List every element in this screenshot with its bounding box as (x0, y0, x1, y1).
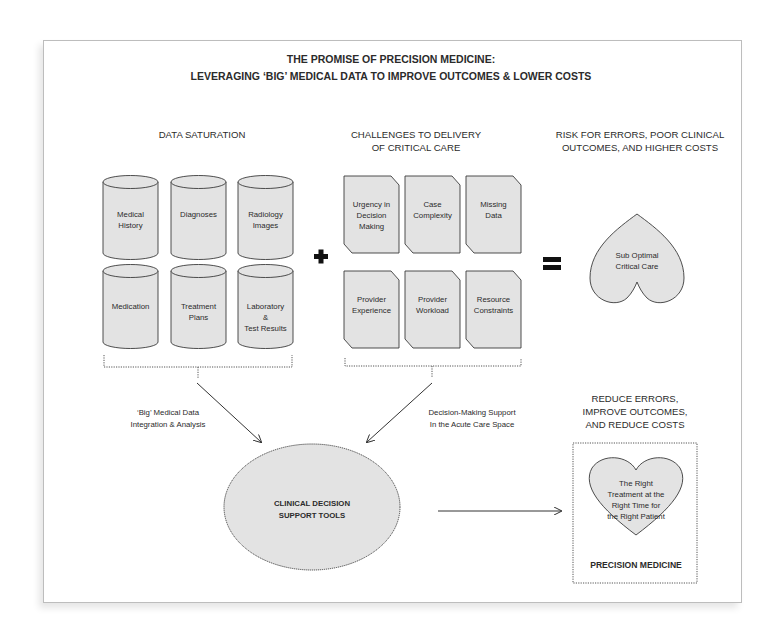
data-bracket (104, 355, 292, 367)
svg-text:Provider: Provider (357, 295, 386, 304)
document-missing-data: Missing Data (466, 176, 521, 253)
svg-text:the Right Patient: the Right Patient (607, 512, 665, 521)
cylinder-medication: Medication (103, 265, 158, 349)
svg-text:Test Results: Test Results (244, 324, 287, 333)
diagram-canvas: THE PROMISE OF PRECISION MEDICINE: LEVER… (0, 0, 783, 640)
sub-optimal-heart: Sub Optimal Critical Care (590, 214, 684, 303)
precision-medicine-box: The Right Treatment at the Right Time fo… (573, 443, 697, 583)
flow-label-right-line-2: In the Acute Care Space (430, 420, 515, 429)
svg-text:Right Time for: Right Time for (612, 501, 661, 510)
svg-text:&: & (263, 313, 269, 322)
arrow-challenges-to-cdst (367, 383, 432, 442)
risk-heading-line-1: RISK FOR ERRORS, POOR CLINICAL (556, 129, 725, 140)
document-provider-workload: Provider Workload (405, 271, 460, 348)
equals-icon (543, 257, 561, 270)
svg-text:SUPPORT TOOLS: SUPPORT TOOLS (279, 511, 346, 520)
svg-text:The Right: The Right (619, 479, 654, 488)
cylinder-diagnoses: Diagnoses (171, 176, 226, 260)
svg-text:Plans: Plans (189, 313, 209, 322)
svg-text:Data: Data (485, 211, 502, 220)
title-line-1: THE PROMISE OF PRECISION MEDICINE: (287, 53, 495, 65)
svg-text:Medical: Medical (117, 210, 144, 219)
svg-text:Making: Making (359, 222, 384, 231)
svg-text:Complexity: Complexity (413, 211, 452, 220)
svg-text:Urgency in: Urgency in (353, 200, 390, 209)
challenges-heading-line-2: OF CRITICAL CARE (372, 142, 461, 153)
precision-medicine-label: PRECISION MEDICINE (590, 560, 682, 570)
svg-text:Decision: Decision (357, 211, 387, 220)
flow-label-right-line-1: Decision-Making Support (428, 408, 516, 417)
data-saturation-heading: DATA SATURATION (159, 129, 246, 140)
svg-text:History: History (118, 221, 142, 230)
svg-text:Case: Case (423, 200, 441, 209)
svg-text:Workload: Workload (416, 306, 449, 315)
document-provider-experience: Provider Experience (344, 271, 399, 348)
document-case-complexity: Case Complexity (405, 176, 460, 253)
outcome-heading-line-2: IMPROVE OUTCOMES, (582, 406, 687, 417)
title-line-2: LEVERAGING ‘BIG’ MEDICAL DATA TO IMPROVE… (191, 70, 592, 82)
svg-text:CLINICAL DECISION: CLINICAL DECISION (274, 499, 350, 508)
svg-text:Sub Optimal: Sub Optimal (616, 251, 659, 260)
flow-label-left-line-1: ‘Big’ Medical Data (137, 408, 200, 417)
svg-text:Experience: Experience (352, 306, 391, 315)
challenges-heading-line-1: CHALLENGES TO DELIVERY (351, 129, 482, 140)
svg-text:Treatment: Treatment (181, 302, 217, 311)
document-resource-constraints: Resource Constraints (466, 271, 521, 348)
risk-heading-line-2: OUTCOMES, AND HIGHER COSTS (562, 142, 718, 153)
svg-text:Treatment at the: Treatment at the (608, 490, 665, 499)
plus-icon (314, 250, 328, 264)
cylinder-laboratory-test-results: Laboratory & Test Results (238, 265, 293, 349)
outcome-heading-line-1: REDUCE ERRORS, (592, 393, 679, 404)
svg-text:Resource: Resource (477, 295, 510, 304)
clinical-decision-support-tools: CLINICAL DECISION SUPPORT TOOLS (224, 444, 400, 570)
svg-text:Diagnoses: Diagnoses (180, 210, 217, 219)
svg-text:Images: Images (253, 221, 279, 230)
challenges-bracket (345, 358, 521, 366)
cylinder-medical-history: Medical History (103, 176, 158, 260)
flow-label-left-line-2: Integration & Analysis (131, 420, 206, 429)
svg-text:Provider: Provider (418, 295, 447, 304)
arrow-data-to-cdst (197, 383, 261, 442)
outcome-heading-line-3: AND REDUCE COSTS (585, 419, 684, 430)
document-urgency-decision-making: Urgency in Decision Making (344, 176, 399, 253)
svg-text:Critical Care: Critical Care (616, 262, 659, 271)
svg-text:Laboratory: Laboratory (247, 302, 284, 311)
cylinder-treatment-plans: Treatment Plans (171, 265, 226, 349)
svg-text:Medication: Medication (112, 302, 150, 311)
svg-text:Radiology: Radiology (248, 210, 283, 219)
svg-text:Missing: Missing (480, 200, 506, 209)
cylinder-radiology-images: Radiology Images (238, 176, 293, 260)
svg-text:Constraints: Constraints (474, 306, 514, 315)
